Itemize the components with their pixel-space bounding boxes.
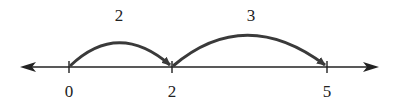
- jump-arc-2-to-5: [173, 35, 325, 66]
- jump-label-2: 3: [247, 6, 256, 25]
- jump-label-1: 2: [115, 6, 124, 25]
- jump-arc-0-to-2: [70, 43, 170, 66]
- tick-label-0: 0: [65, 82, 74, 101]
- tick-label-2: 2: [168, 82, 177, 101]
- tick-label-5: 5: [323, 82, 332, 101]
- number-line-diagram: 2 3 0 2 5: [0, 0, 399, 104]
